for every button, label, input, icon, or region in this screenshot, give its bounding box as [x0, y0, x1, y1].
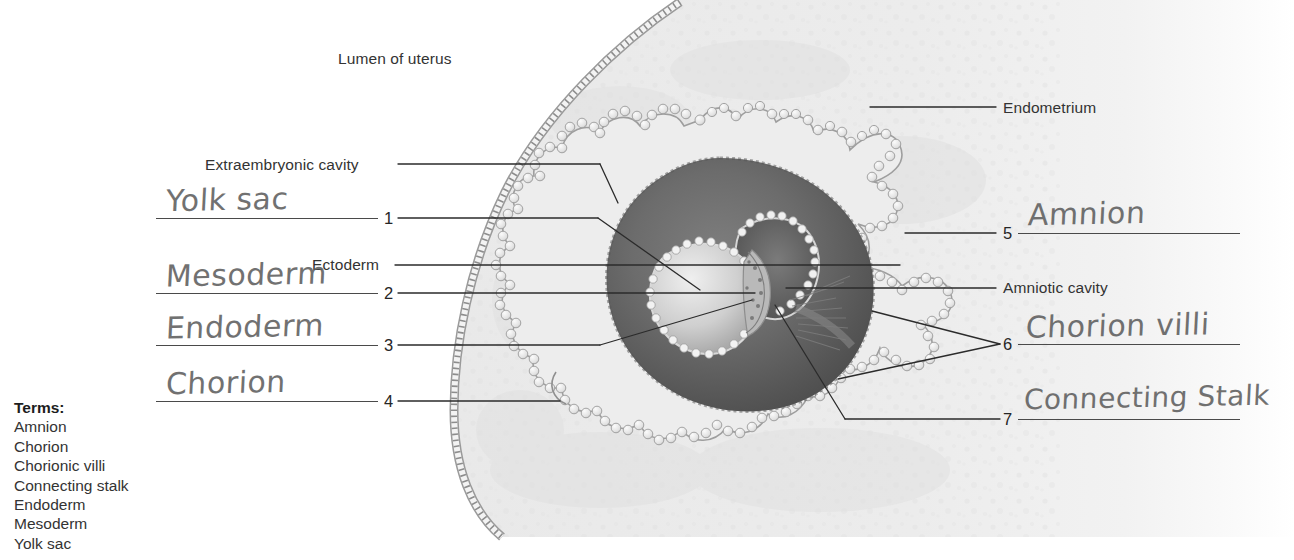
answer-text-5[interactable]: Amnion	[1027, 195, 1146, 232]
numeral-1: 1	[384, 209, 393, 228]
answer-rule-2[interactable]	[156, 293, 378, 294]
numeral-6: 6	[1003, 335, 1012, 354]
term-item-endoderm: Endoderm	[14, 495, 234, 514]
answer-text-6[interactable]: Chorion villi	[1025, 306, 1210, 345]
term-item-mesoderm: Mesoderm	[14, 514, 234, 533]
label-amniotic-cavity: Amniotic cavity	[1003, 279, 1108, 297]
numeral-5: 5	[1003, 224, 1012, 243]
answer-text-3[interactable]: Endoderm	[165, 307, 325, 345]
numeral-4: 4	[384, 392, 393, 411]
answer-rule-1[interactable]	[156, 218, 378, 219]
term-item-amnion: Amnion	[14, 417, 234, 436]
terms-box: Terms: Amnion Chorion Chorionic villi Co…	[14, 398, 234, 553]
terms-title: Terms:	[14, 398, 234, 417]
answer-text-2[interactable]: Mesoderm	[165, 255, 328, 293]
worksheet-page: Lumen of uterus Endometrium Extraembryon…	[0, 0, 1294, 560]
numeral-7: 7	[1003, 410, 1012, 429]
answer-text-7[interactable]: Connecting Stalk	[1023, 379, 1271, 417]
term-item-yolk-sac: Yolk sac	[14, 534, 234, 553]
label-endometrium: Endometrium	[1003, 99, 1096, 117]
term-item-chorionic-villi: Chorionic villi	[14, 456, 234, 475]
numeral-2: 2	[384, 284, 393, 303]
answer-rule-5[interactable]	[1018, 233, 1240, 234]
label-lumen-of-uterus: Lumen of uterus	[338, 50, 452, 68]
numeral-3: 3	[384, 336, 393, 355]
term-item-chorion: Chorion	[14, 437, 234, 456]
answer-rule-7[interactable]	[1018, 419, 1240, 420]
term-item-connecting-stalk: Connecting stalk	[14, 476, 234, 495]
answer-text-1[interactable]: Yolk sac	[165, 181, 289, 218]
answer-text-4[interactable]: Chorion	[165, 364, 287, 401]
label-extraembryonic-cavity: Extraembryonic cavity	[205, 156, 359, 174]
answer-rule-3[interactable]	[156, 345, 378, 346]
